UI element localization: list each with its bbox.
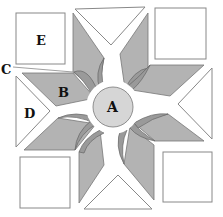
label-B: B (58, 85, 69, 100)
label-D: D (24, 106, 35, 121)
corner-square-top-right (155, 8, 206, 59)
corner-square-bottom-left (20, 157, 70, 208)
corner-square-bottom-right (163, 152, 212, 202)
label-E: E (36, 33, 46, 48)
label-A: A (106, 99, 119, 115)
pointer-line-C (13, 67, 73, 72)
label-C: C (1, 62, 11, 77)
quilt-diagram: A B C D E (0, 0, 223, 217)
